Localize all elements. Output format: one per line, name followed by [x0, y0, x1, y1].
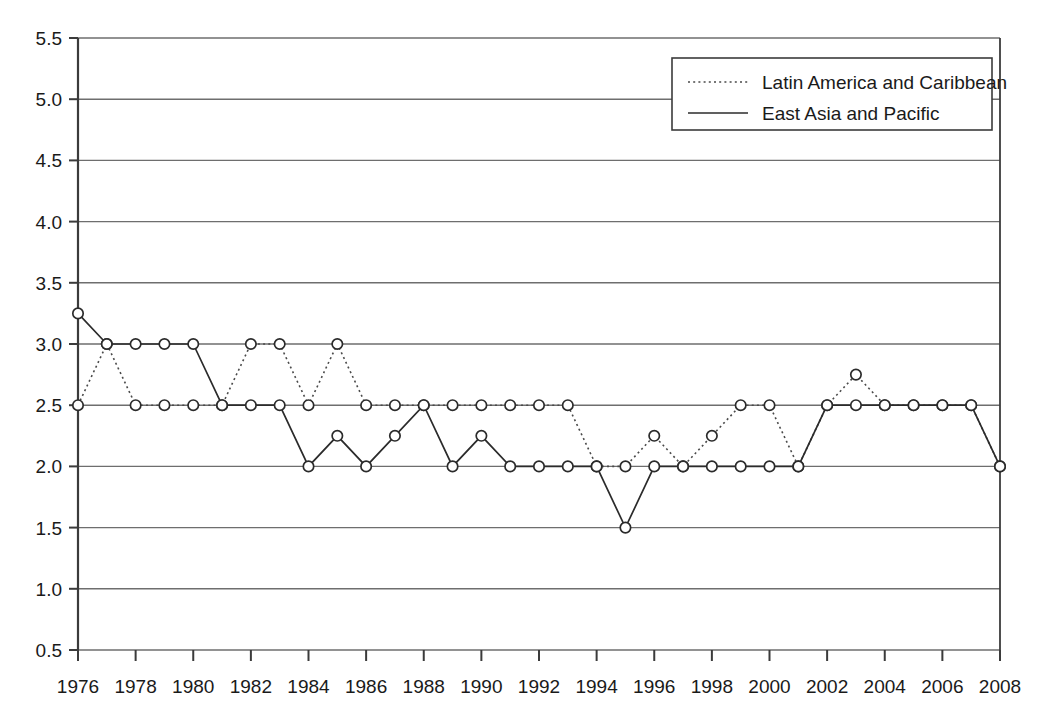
data-point-marker: [534, 400, 544, 410]
y-tick-label: 5.5: [36, 28, 62, 49]
y-tick-label: 3.5: [36, 273, 62, 294]
data-point-marker: [159, 339, 169, 349]
x-tick-label: 1986: [345, 676, 387, 697]
data-point-marker: [274, 400, 284, 410]
data-point-marker: [390, 431, 400, 441]
data-point-marker: [447, 400, 457, 410]
data-point-marker: [130, 400, 140, 410]
x-axis-ticks: 1976197819801982198419861988199019921994…: [57, 650, 1021, 697]
y-tick-label: 1.5: [36, 518, 62, 539]
x-tick-label: 1980: [172, 676, 214, 697]
series-line-2: [78, 313, 1000, 527]
legend-label-1: Latin America and Caribbean: [762, 72, 1007, 93]
data-point-marker: [130, 339, 140, 349]
x-tick-label: 2008: [979, 676, 1021, 697]
y-tick-label: 1.0: [36, 579, 62, 600]
y-tick-label: 4.5: [36, 150, 62, 171]
data-point-marker: [73, 400, 83, 410]
data-point-marker: [188, 339, 198, 349]
data-point-marker: [908, 400, 918, 410]
data-point-marker: [505, 461, 515, 471]
data-point-marker: [390, 400, 400, 410]
data-point-marker: [246, 339, 256, 349]
data-point-marker: [188, 400, 198, 410]
x-tick-label: 1992: [518, 676, 560, 697]
data-point-marker: [303, 400, 313, 410]
data-point-marker: [505, 400, 515, 410]
data-point-marker: [620, 522, 630, 532]
data-point-marker: [649, 431, 659, 441]
data-point-marker: [159, 400, 169, 410]
data-point-marker: [447, 461, 457, 471]
y-axis-ticks: 0.51.01.52.02.53.03.54.04.55.05.5: [36, 28, 78, 661]
x-tick-label: 2006: [921, 676, 963, 697]
data-point-marker: [332, 339, 342, 349]
data-series: [78, 313, 1000, 527]
legend-label-2: East Asia and Pacific: [762, 103, 939, 124]
data-point-marker: [735, 400, 745, 410]
x-tick-label: 1998: [691, 676, 733, 697]
data-point-marker: [620, 461, 630, 471]
data-point-marker: [995, 461, 1005, 471]
line-chart: 0.51.01.52.02.53.03.54.04.55.05.5 197619…: [0, 0, 1042, 723]
chart-legend: Latin America and CaribbeanEast Asia and…: [672, 58, 1007, 130]
data-point-marker: [880, 400, 890, 410]
data-point-marker: [563, 400, 573, 410]
data-point-marker: [246, 400, 256, 410]
data-point-marker: [678, 461, 688, 471]
data-point-marker: [764, 461, 774, 471]
data-point-marker: [591, 461, 601, 471]
x-tick-label: 1976: [57, 676, 99, 697]
data-point-marker: [851, 369, 861, 379]
data-point-marker: [102, 339, 112, 349]
y-tick-label: 2.5: [36, 395, 62, 416]
data-point-marker: [361, 400, 371, 410]
y-tick-label: 2.0: [36, 456, 62, 477]
data-point-marker: [649, 461, 659, 471]
data-point-markers: [73, 308, 1005, 533]
data-point-marker: [822, 400, 832, 410]
data-point-marker: [851, 400, 861, 410]
x-tick-label: 1994: [575, 676, 618, 697]
data-point-marker: [937, 400, 947, 410]
data-point-marker: [966, 400, 976, 410]
x-tick-label: 1990: [460, 676, 502, 697]
data-point-marker: [476, 431, 486, 441]
data-point-marker: [707, 461, 717, 471]
data-point-marker: [419, 400, 429, 410]
x-tick-label: 1984: [287, 676, 330, 697]
y-tick-label: 4.0: [36, 212, 62, 233]
y-tick-label: 3.0: [36, 334, 62, 355]
x-tick-label: 1978: [114, 676, 156, 697]
x-tick-label: 2000: [748, 676, 790, 697]
data-point-marker: [534, 461, 544, 471]
data-point-marker: [332, 431, 342, 441]
y-tick-label: 0.5: [36, 640, 62, 661]
x-tick-label: 1996: [633, 676, 675, 697]
data-point-marker: [735, 461, 745, 471]
y-tick-label: 5.0: [36, 89, 62, 110]
data-point-marker: [361, 461, 371, 471]
x-tick-label: 1982: [230, 676, 272, 697]
chart-canvas: 0.51.01.52.02.53.03.54.04.55.05.5 197619…: [0, 0, 1042, 723]
data-point-marker: [217, 400, 227, 410]
data-point-marker: [793, 461, 803, 471]
data-point-marker: [707, 431, 717, 441]
data-point-marker: [563, 461, 573, 471]
data-point-marker: [764, 400, 774, 410]
data-point-marker: [73, 308, 83, 318]
data-point-marker: [476, 400, 486, 410]
data-point-marker: [274, 339, 284, 349]
x-tick-label: 2004: [864, 676, 907, 697]
x-tick-label: 2002: [806, 676, 848, 697]
data-point-marker: [303, 461, 313, 471]
x-tick-label: 1988: [403, 676, 445, 697]
